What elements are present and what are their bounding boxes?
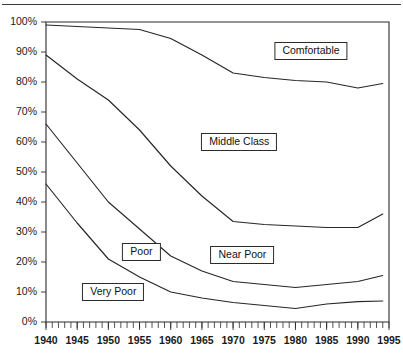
x-tick-label: 1945 [66, 334, 90, 346]
series-lines [46, 25, 383, 309]
band-label-very-poor: Very Poor [82, 283, 144, 301]
x-tick-label: 1965 [190, 334, 214, 346]
x-tick-label: 1950 [97, 334, 121, 346]
y-tick-label: 10% [16, 285, 37, 297]
x-axis-major-ticks [46, 322, 389, 330]
x-tick-label: 1955 [128, 334, 152, 346]
x-tick-label: 1970 [221, 334, 245, 346]
x-tick-label: 1990 [346, 334, 370, 346]
x-tick-label: 1985 [315, 334, 339, 346]
x-tick-label: 1975 [253, 334, 277, 346]
y-tick-label: 90% [16, 45, 37, 57]
y-tick-label: 60% [16, 135, 37, 147]
x-tick-label: 1960 [159, 334, 183, 346]
y-tick-label: 100% [10, 15, 37, 27]
x-tick-label: 1995 [377, 334, 401, 346]
y-tick-label: 40% [16, 195, 37, 207]
x-tick-label: 1940 [34, 334, 58, 346]
y-tick-label: 80% [16, 75, 37, 87]
y-tick-label: 0% [22, 315, 37, 327]
x-axis-tick-labels: 1940194519501955196019651970197519801985… [34, 334, 401, 346]
band-label-middle-class: Middle Class [201, 133, 277, 151]
chart-plot-area: 0%10%20%30%40%50%60%70%80%90%100% 194019… [0, 10, 403, 362]
x-axis-minor-ticks [46, 322, 389, 328]
band-label-poor: Poor [122, 242, 160, 260]
x-tick-label: 1980 [284, 334, 308, 346]
band-label-near-poor: Near Poor [211, 245, 275, 263]
line-chart-svg: 0%10%20%30%40%50%60%70%80%90%100% 194019… [0, 10, 403, 362]
y-axis-tick-marks [41, 22, 46, 322]
y-tick-label: 20% [16, 255, 37, 267]
figure-container: 0%10%20%30%40%50%60%70%80%90%100% 194019… [0, 0, 403, 362]
top-horizontal-rule [2, 4, 401, 5]
band-label-comfortable: Comfortable [274, 41, 347, 59]
y-tick-label: 50% [16, 165, 37, 177]
axes-frame [46, 22, 389, 322]
y-axis-tick-labels: 0%10%20%30%40%50%60%70%80%90%100% [10, 15, 37, 327]
y-tick-label: 70% [16, 105, 37, 117]
y-tick-label: 30% [16, 225, 37, 237]
